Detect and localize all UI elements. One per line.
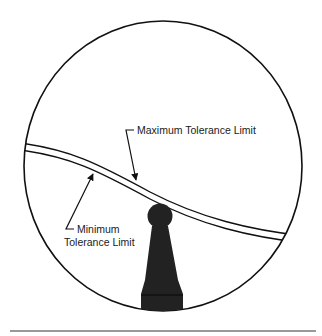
minimum-label-line2: Tolerance Limit: [64, 236, 135, 249]
minimum-tolerance-label: Minimum Tolerance Limit: [64, 223, 135, 249]
minimum-label-line1: Minimum: [77, 223, 135, 236]
minimum-leader-arrow: [66, 174, 93, 229]
maximum-leader-arrow: [126, 130, 136, 180]
pawn-icon: [141, 204, 183, 312]
maximum-tolerance-label: Maximum Tolerance Limit: [137, 124, 256, 137]
tolerance-diagram: [0, 0, 322, 336]
